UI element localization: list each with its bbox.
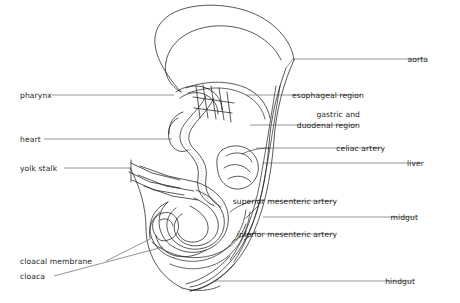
liver-mass [217,146,259,189]
pharynx-region [176,82,270,122]
label-inferior-mesenteric-artery: inferior mesenteric artery [237,230,337,241]
embryo-gut-diagram: pharynxheartyolk stalkcloacal membranecl… [0,0,460,303]
label-yolk-stalk: yolk stalk [20,164,57,175]
label-pharynx: pharynx [20,91,52,102]
label-midgut: midgut [390,213,418,224]
label-cloacal-membrane: cloacal membrane [20,257,92,268]
yolk-stalk-duct [129,160,198,200]
label-esophageal-region: esophageal region [292,91,364,102]
leader-cloacal-membrane [106,238,152,261]
label-liver: liver [407,159,424,170]
head-outline [155,5,294,92]
label-celiac-artery: celiac artery [336,144,385,155]
label-cloaca: cloaca [20,272,45,283]
label-superior-mesenteric-artery: superior mesenteric artery [233,197,337,208]
label-aorta: aorta [407,55,428,66]
label-heart: heart [20,135,41,146]
leader-aorta [286,59,425,68]
label-hindgut: hindgut [385,277,415,288]
visceral-arteries [230,148,270,242]
leader-lines [44,59,425,281]
label-gastric-and-duodenal-region: gastric andduodenal region [297,110,360,132]
